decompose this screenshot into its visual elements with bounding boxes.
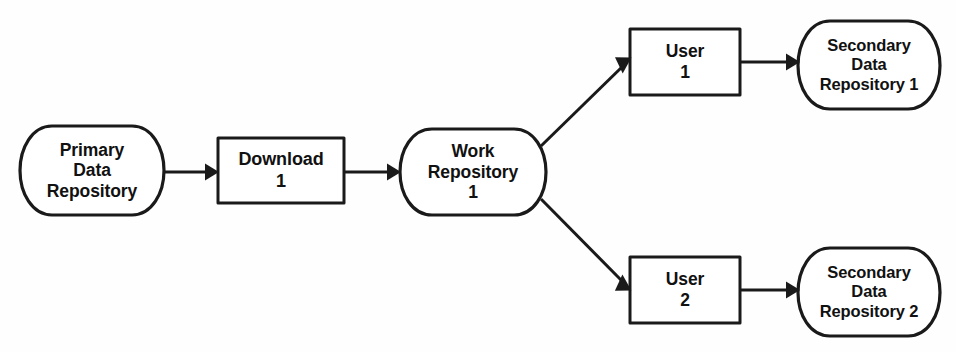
edge-primary-to-download <box>163 164 219 181</box>
user-2-line-2: 2 <box>680 290 690 311</box>
secondary-repository-1-label: Secondary Data Repository 1 <box>798 21 940 109</box>
primary-repository-label: Primary Data Repository <box>20 126 164 215</box>
user-1-line-1: User <box>666 41 705 62</box>
user-2-line-1: User <box>666 269 705 290</box>
primary-repository-line-3: Repository <box>47 181 137 202</box>
flow-diagram: Primary Data Repository Download 1 Work … <box>0 0 956 352</box>
primary-repository-line-1: Primary <box>60 140 124 161</box>
edge-work-to-user2 <box>541 199 631 291</box>
secondary-repository-1-line-3: Repository 1 <box>820 75 919 94</box>
secondary-repository-2-line-3: Repository 2 <box>820 302 919 321</box>
secondary-repository-2-label: Secondary Data Repository 2 <box>798 248 940 336</box>
edge-download-to-work <box>344 164 401 181</box>
work-repository-line-3: 1 <box>468 182 478 203</box>
edge-work-to-user1 <box>541 57 632 146</box>
secondary-repository-2-line-1: Secondary <box>827 263 910 282</box>
secondary-repository-1-line-2: Data <box>851 55 886 74</box>
download-line-2: 1 <box>276 171 286 192</box>
download-line-1: Download <box>238 149 323 170</box>
work-repository-line-2: Repository <box>428 162 518 183</box>
work-repository-label: Work Repository 1 <box>400 129 546 215</box>
user-1-label: User 1 <box>630 29 740 95</box>
work-repository-line-1: Work <box>451 141 494 162</box>
user-2-label: User 2 <box>630 257 740 323</box>
download-label: Download 1 <box>218 138 344 203</box>
edge-user2-to-secondary2 <box>740 282 800 299</box>
secondary-repository-2-line-2: Data <box>851 282 886 301</box>
user-1-line-2: 1 <box>680 62 690 83</box>
primary-repository-line-2: Data <box>73 160 111 181</box>
edge-user1-to-secondary1 <box>740 54 800 71</box>
secondary-repository-1-line-1: Secondary <box>827 36 910 55</box>
